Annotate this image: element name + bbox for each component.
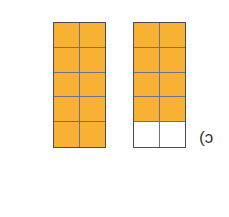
shaded-cell: [134, 97, 160, 122]
shaded-cell: [160, 48, 186, 73]
fraction-grid-right: [133, 22, 186, 148]
shaded-cell: [80, 23, 106, 48]
shaded-cell: [80, 122, 106, 147]
empty-cell: [134, 122, 160, 147]
shaded-cell: [160, 23, 186, 48]
shaded-cell: [54, 97, 80, 122]
empty-cell: [160, 122, 186, 147]
shaded-cell: [54, 23, 80, 48]
shaded-cell: [160, 73, 186, 98]
shaded-cell: [134, 23, 160, 48]
shaded-cell: [54, 122, 80, 147]
fraction-grid-left: [53, 22, 106, 148]
shaded-cell: [80, 73, 106, 98]
shaded-cell: [160, 97, 186, 122]
shaded-cell: [54, 73, 80, 98]
shaded-cell: [80, 97, 106, 122]
shaded-cell: [54, 48, 80, 73]
shaded-cell: [80, 48, 106, 73]
part-label: c): [199, 128, 213, 148]
shaded-cell: [134, 48, 160, 73]
shaded-cell: [134, 73, 160, 98]
